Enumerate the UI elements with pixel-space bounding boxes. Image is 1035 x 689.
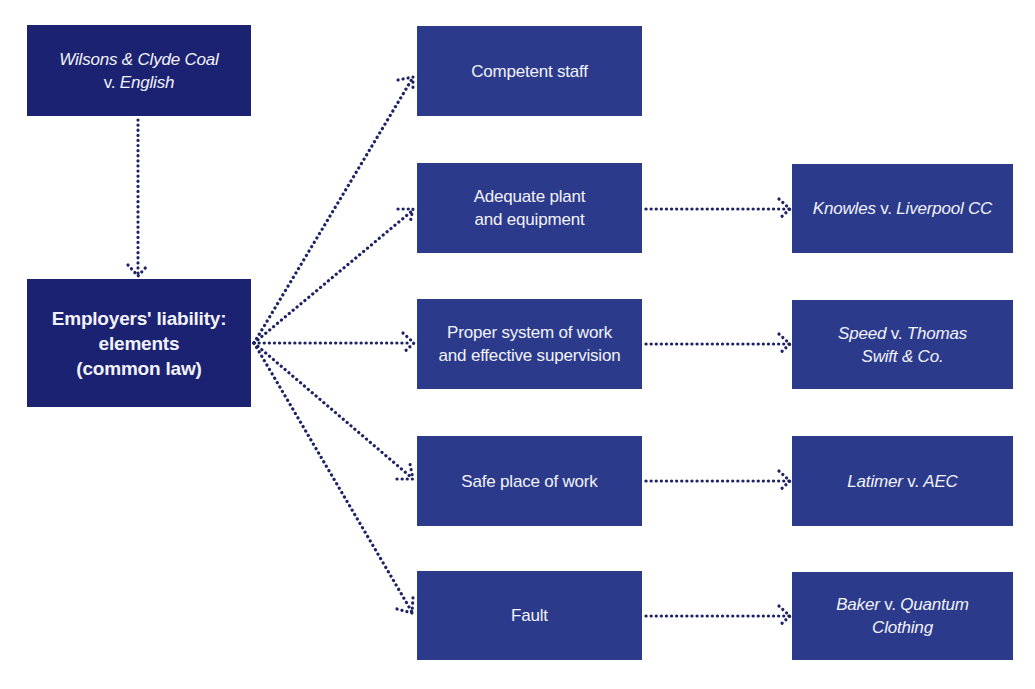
element-label: Proper system of work bbox=[439, 321, 621, 344]
case-knowles: Knowles v. Liverpool CC bbox=[792, 164, 1013, 253]
central-node-line3: (common law) bbox=[52, 356, 227, 381]
element-label: Adequate plant bbox=[474, 185, 586, 208]
source-case-line2: v. English bbox=[59, 71, 218, 94]
defendant-text: Thomas bbox=[907, 324, 967, 343]
element-label: Competent staff bbox=[471, 60, 588, 83]
defendant-text-line2: Swift & Co. bbox=[838, 345, 967, 368]
element-competent-staff: Competent staff bbox=[417, 26, 642, 116]
versus-text: v. bbox=[903, 472, 924, 491]
central-node-box: Employers' liability: elements (common l… bbox=[27, 279, 251, 407]
case-baker: Baker v. Quantum Clothing bbox=[792, 572, 1013, 660]
claimant-text: Knowles bbox=[813, 199, 876, 218]
element-label: and equipment bbox=[474, 208, 586, 231]
element-adequate-plant: Adequate plantand equipment bbox=[417, 163, 642, 253]
versus-text: v. bbox=[880, 595, 901, 614]
versus-text: v. bbox=[104, 73, 120, 92]
element-safe-place: Safe place of work bbox=[417, 436, 642, 526]
central-node-line1: Employers' liability: bbox=[52, 306, 227, 331]
claimant-text: Speed bbox=[838, 324, 886, 343]
element-label: Safe place of work bbox=[461, 470, 597, 493]
versus-text: v. bbox=[886, 324, 907, 343]
element-label: Fault bbox=[511, 604, 548, 627]
defendant-text: AEC bbox=[923, 472, 957, 491]
case-latimer: Latimer v. AEC bbox=[792, 436, 1013, 526]
defendant-text: Quantum bbox=[900, 595, 969, 614]
element-proper-system: Proper system of workand effective super… bbox=[417, 299, 642, 389]
defendant-text: Liverpool CC bbox=[896, 199, 992, 218]
element-fault: Fault bbox=[417, 571, 642, 660]
source-case-box: Wilsons & Clyde Coal v. English bbox=[27, 25, 251, 116]
claimant-text: Latimer bbox=[847, 472, 902, 491]
central-node-line2: elements bbox=[52, 331, 227, 356]
defendant-text-line2: Clothing bbox=[836, 616, 969, 639]
defendant-text: English bbox=[120, 73, 174, 92]
element-label: and effective supervision bbox=[439, 344, 621, 367]
case-speed: Speed v. Thomas Swift & Co. bbox=[792, 300, 1013, 389]
versus-text: v. bbox=[876, 199, 897, 218]
claimant-text: Baker bbox=[836, 595, 879, 614]
source-case-line1: Wilsons & Clyde Coal bbox=[59, 48, 218, 71]
